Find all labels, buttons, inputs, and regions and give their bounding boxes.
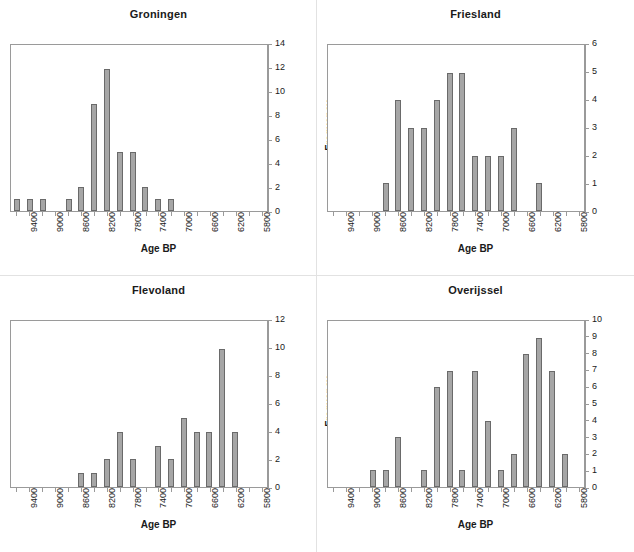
histogram-bar [78, 473, 84, 487]
bin-cell [507, 45, 520, 211]
x-tick-label: 7400 [469, 220, 482, 260]
bin-cell [482, 45, 495, 211]
x-tick-label-text: 5800 [579, 212, 589, 232]
plot-area-groningen [10, 44, 268, 212]
y-tick-mark [585, 100, 589, 101]
histogram-bar [155, 446, 161, 488]
y-tick-mark [585, 488, 589, 489]
y-tick-label: 2 [275, 454, 280, 465]
bin-cell [165, 45, 178, 211]
bin-cell [469, 45, 482, 211]
histogram-bar [130, 152, 136, 211]
x-axis-title-groningen: Age BP [0, 243, 317, 254]
y-tick-label: 8 [275, 110, 280, 121]
y-tick-label: 0 [592, 206, 597, 217]
bin-cell [37, 45, 50, 211]
plot-area-flevoland [10, 320, 268, 488]
x-tick-label: 7400 [469, 496, 482, 536]
histogram-bar [395, 100, 401, 211]
x-tick-label: 7000 [495, 220, 508, 260]
bin-cell [341, 321, 354, 487]
y-axis-groningen: 02468101214 [268, 44, 298, 212]
x-tick-label: 9400 [340, 496, 353, 536]
x-axis-labels-flevoland: 9400900086008200780074007000660062005800 [10, 496, 268, 536]
bin-cell [113, 321, 126, 487]
y-tick-label: 7 [592, 364, 597, 375]
x-tick-label [242, 496, 255, 536]
y-tick-label: 2 [592, 448, 597, 459]
x-tick-label [217, 220, 230, 260]
bar-series-flevoland [11, 321, 267, 487]
y-tick-label: 6 [592, 381, 597, 392]
y-tick-label: 6 [275, 398, 280, 409]
histogram-bar [130, 459, 136, 487]
histogram-bar [498, 156, 504, 211]
histogram-bar [78, 187, 84, 211]
y-tick-mark [268, 376, 272, 377]
histogram-bar [447, 73, 453, 211]
x-tick-label: 8200 [100, 220, 113, 260]
x-tick-label [191, 220, 204, 260]
bin-cell [443, 321, 456, 487]
x-tick-label [559, 496, 572, 536]
bin-cell [24, 45, 37, 211]
histogram-bar [472, 156, 478, 211]
x-tick-label: 7800 [126, 220, 139, 260]
histogram-bar [459, 470, 465, 487]
bin-cell [62, 321, 75, 487]
x-tick-label [456, 220, 469, 260]
x-tick-label: 7400 [152, 220, 165, 260]
histogram-bar [168, 459, 174, 487]
histogram-bar [142, 187, 148, 211]
bin-cell [418, 321, 431, 487]
chart-title-flevoland: Flevoland [0, 284, 317, 296]
x-axis-title-overijssel: Age BP [317, 519, 634, 530]
x-tick-label [482, 496, 495, 536]
histogram-bar [206, 432, 212, 487]
x-tick-label [242, 220, 255, 260]
bin-cell [88, 45, 101, 211]
y-tick-label: 2 [275, 182, 280, 193]
y-tick-mark [585, 471, 589, 472]
histogram-bar [168, 199, 174, 211]
bin-cell [520, 321, 533, 487]
y-tick-mark [268, 164, 272, 165]
x-tick-label [430, 496, 443, 536]
x-tick-label [353, 220, 366, 260]
x-tick-label [87, 496, 100, 536]
bin-cell [101, 45, 114, 211]
x-tick-label [404, 496, 417, 536]
x-tick-label [62, 220, 75, 260]
bin-cell [24, 321, 37, 487]
x-tick-label: 9000 [366, 496, 379, 536]
x-tick-label [191, 496, 204, 536]
bin-cell [456, 321, 469, 487]
x-tick-label [482, 220, 495, 260]
bin-cell [101, 321, 114, 487]
x-tick-label: 7800 [126, 496, 139, 536]
y-tick-label: 0 [275, 482, 280, 493]
bin-cell [533, 321, 546, 487]
panel-overijssel: Overijssel940090008600820078007400700066… [317, 276, 634, 552]
bin-cell [190, 321, 203, 487]
x-tick-label [10, 220, 23, 260]
bin-cell [354, 321, 367, 487]
panel-flevoland: Flevoland9400900086008200780074007000660… [0, 276, 317, 552]
bin-cell [11, 45, 24, 211]
x-tick-label [113, 496, 126, 536]
x-tick-label [379, 496, 392, 536]
x-tick-label: 5800 [572, 496, 585, 536]
y-axis-flevoland: 024681012 [268, 320, 298, 488]
y-tick-label: 6 [592, 38, 597, 49]
y-tick-mark [585, 454, 589, 455]
bin-cell [152, 321, 165, 487]
y-tick-label: 1 [592, 178, 597, 189]
x-tick-label: 6600 [521, 220, 534, 260]
y-tick-label: 10 [275, 86, 285, 97]
histogram-bar [549, 371, 555, 487]
bin-cell [366, 45, 379, 211]
bin-cell [177, 321, 190, 487]
histogram-bar [485, 156, 491, 211]
bin-cell [49, 45, 62, 211]
y-tick-label: 2 [592, 150, 597, 161]
